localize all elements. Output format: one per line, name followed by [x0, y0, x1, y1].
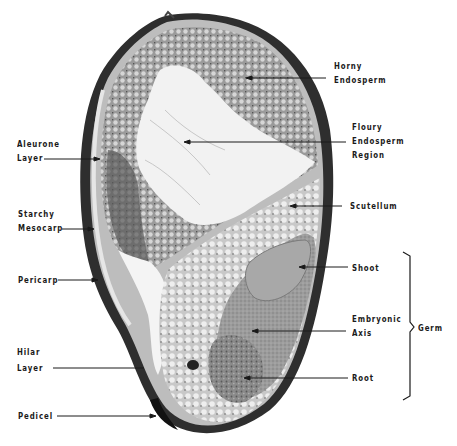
label-hilar-layer: Hilar Layer — [17, 345, 43, 375]
label-horny-endosperm: Horny Endosperm — [334, 59, 386, 87]
label-scutellum: Scutellum — [350, 199, 398, 213]
label-pedicel: Pedicel — [18, 409, 53, 423]
kernel-micrograph — [0, 0, 457, 446]
label-aleurone-layer: Aleurone Layer — [17, 137, 60, 165]
germ-brace — [403, 252, 414, 400]
label-shoot: Shoot — [352, 261, 380, 275]
label-embryonic-axis: Embryonic Axis — [352, 312, 402, 340]
kernel-diagram: Horny Endosperm Floury Endosperm Region … — [0, 0, 457, 446]
label-germ: Germ — [418, 321, 443, 335]
label-starchy-mesocarp: Starchy Mesocarp — [18, 207, 63, 235]
label-floury-endosperm-region: Floury Endosperm Region — [352, 120, 404, 162]
label-root: Root — [352, 371, 374, 385]
label-pericarp: Pericarp — [18, 273, 58, 287]
